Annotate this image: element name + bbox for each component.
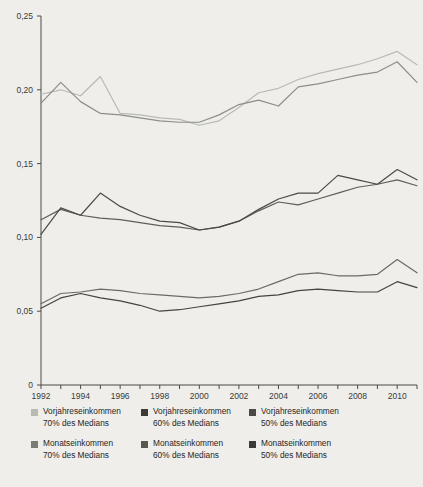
y-tick-label: 0,05: [16, 306, 33, 316]
legend-item-monat-50[interactable]: Monatseinkommen 50% des Medians: [249, 438, 379, 461]
series-line-1: [41, 62, 417, 123]
legend-label-line2: 50% des Medians: [261, 418, 339, 430]
legend-swatch-icon: [141, 441, 148, 448]
plot-area: 00,050,100,150,200,251992199419961998200…: [0, 0, 423, 400]
y-tick-label: 0,25: [16, 11, 33, 21]
legend-label-line1: Monatseinkommen: [43, 438, 113, 448]
y-tick-label: 0,10: [16, 232, 33, 242]
legend-item-vorjahr-50[interactable]: Vorjahreseinkommen 50% des Medians: [249, 406, 379, 429]
legend-label-line2: 70% des Medians: [43, 450, 113, 462]
legend-swatch-icon: [31, 409, 38, 416]
series-line-2: [41, 180, 417, 230]
chart-root: 00,050,100,150,200,251992199419961998200…: [0, 0, 423, 487]
legend-row-monatseinkommen: Monatseinkommen 70% des Medians Monatsei…: [0, 438, 423, 461]
legend-row-spacer: [0, 431, 423, 438]
legend-label-line2: 60% des Medians: [153, 418, 231, 430]
x-tick-label: 2006: [309, 391, 328, 400]
legend-label-line2: 60% des Medians: [153, 450, 223, 462]
legend-row-vorjahreseinkommen: Vorjahreseinkommen 70% des Medians Vorja…: [0, 406, 423, 429]
legend-swatch-icon: [249, 409, 256, 416]
legend-label-line1: Monatseinkommen: [261, 438, 331, 448]
line-chart: 00,050,100,150,200,251992199419961998200…: [0, 0, 423, 400]
legend-label: Vorjahreseinkommen 50% des Medians: [261, 406, 339, 429]
y-tick-label: 0: [28, 380, 33, 390]
legend-label-line1: Vorjahreseinkommen: [153, 406, 231, 416]
legend-swatch-icon: [141, 409, 148, 416]
x-tick-label: 1994: [71, 391, 90, 400]
legend-label-line1: Vorjahreseinkommen: [261, 406, 339, 416]
legend-label-line1: Vorjahreseinkommen: [43, 406, 121, 416]
legend-item-monat-60[interactable]: Monatseinkommen 60% des Medians: [141, 438, 249, 461]
y-tick-label: 0,15: [16, 159, 33, 169]
x-tick-label: 1996: [111, 391, 130, 400]
legend-item-monat-70[interactable]: Monatseinkommen 70% des Medians: [31, 438, 141, 461]
legend-label-line2: 70% des Medians: [43, 418, 121, 430]
x-tick-label: 1992: [32, 391, 51, 400]
x-tick-label: 2004: [269, 391, 288, 400]
legend-swatch-icon: [249, 441, 256, 448]
legend-item-vorjahr-70[interactable]: Vorjahreseinkommen 70% des Medians: [31, 406, 141, 429]
series-line-3: [41, 170, 417, 235]
series-line-0: [41, 51, 417, 125]
legend-label-line1: Monatseinkommen: [153, 438, 223, 448]
x-tick-label: 2000: [190, 391, 209, 400]
legend-label: Vorjahreseinkommen 60% des Medians: [153, 406, 231, 429]
legend-swatch-icon: [31, 441, 38, 448]
legend-label-line2: 50% des Medians: [261, 450, 331, 462]
legend-label: Monatseinkommen 60% des Medians: [153, 438, 223, 461]
legend-label: Monatseinkommen 50% des Medians: [261, 438, 331, 461]
legend-item-vorjahr-60[interactable]: Vorjahreseinkommen 60% des Medians: [141, 406, 249, 429]
x-tick-label: 1998: [150, 391, 169, 400]
legend-label: Monatseinkommen 70% des Medians: [43, 438, 113, 461]
chart-legend: Vorjahreseinkommen 70% des Medians Vorja…: [0, 406, 423, 487]
x-tick-label: 2010: [388, 391, 407, 400]
legend-label: Vorjahreseinkommen 70% des Medians: [43, 406, 121, 429]
x-tick-label: 2002: [229, 391, 248, 400]
x-tick-label: 2008: [348, 391, 367, 400]
series-line-5: [41, 282, 417, 312]
y-tick-label: 0,20: [16, 85, 33, 95]
